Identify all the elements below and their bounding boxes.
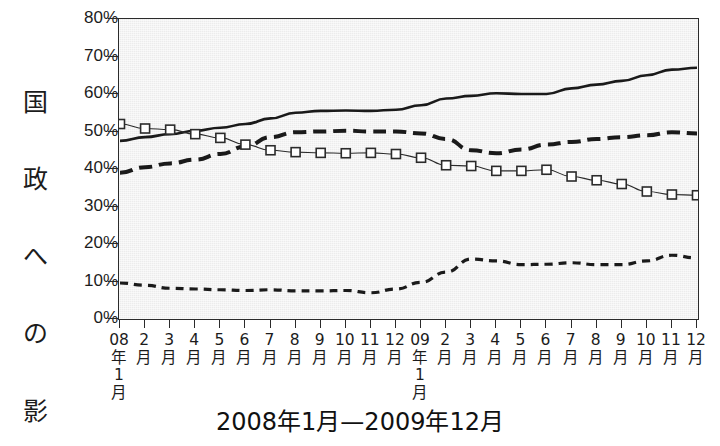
series-layer <box>119 19 698 319</box>
series-marker-square <box>667 190 676 199</box>
series-marker-square <box>467 162 476 171</box>
series-line-open-square-line <box>120 124 697 195</box>
x-axis-tick-mark <box>345 319 346 328</box>
series-line-long-dashed-line <box>120 131 697 173</box>
x-axis-tick-mark <box>445 319 446 328</box>
y-axis-tick-mark <box>108 281 118 282</box>
series-marker-square <box>642 187 651 196</box>
x-axis-tick-mark <box>194 319 195 328</box>
x-axis-tick-mark <box>621 319 622 328</box>
series-marker-square <box>391 150 400 159</box>
x-axis-tick-mark <box>470 319 471 328</box>
x-axis-tick-mark <box>370 319 371 328</box>
series-marker-square <box>119 120 125 129</box>
y-axis-tick-mark <box>108 168 118 169</box>
series-marker-square <box>266 146 275 155</box>
y-axis-tick-mark <box>108 243 118 244</box>
x-axis-tick-mark <box>395 319 396 328</box>
x-axis-tick-mark <box>219 319 220 328</box>
x-axis-tick-mark <box>270 319 271 328</box>
series-marker-square <box>166 125 175 134</box>
x-axis-tick-mark <box>545 319 546 328</box>
series-marker-square <box>592 176 601 185</box>
series-marker-square <box>492 166 501 175</box>
y-axis-tick-mark <box>108 206 118 207</box>
x-axis-tick-mark <box>596 319 597 328</box>
y-axis-tick-mark <box>108 93 118 94</box>
series-line-solid-line <box>120 68 697 141</box>
series-marker-square <box>341 149 350 158</box>
x-axis-tick-mark <box>320 319 321 328</box>
x-axis-tick-mark <box>420 319 421 328</box>
y-axis-tick-mark <box>108 56 118 57</box>
series-marker-square <box>141 124 150 133</box>
x-axis-tick-mark <box>646 319 647 328</box>
y-axis-tick-mark <box>108 131 118 132</box>
series-marker-square <box>693 191 699 200</box>
series-marker-square <box>442 161 451 170</box>
series-marker-square <box>542 165 551 174</box>
series-marker-square <box>517 166 526 175</box>
x-axis-tick-mark <box>571 319 572 328</box>
plot-area <box>118 18 699 320</box>
chart-figure: 国 政 へ の 影 響 力 （%） 80%70%60%50%40%30%20%1… <box>0 0 720 446</box>
series-marker-square <box>617 180 626 189</box>
series-line-short-dashed-line <box>120 255 697 293</box>
x-axis-tick-mark <box>119 319 120 328</box>
y-axis-tick-mark <box>108 318 118 319</box>
series-marker-square <box>366 148 375 157</box>
series-marker-square <box>417 153 426 162</box>
series-marker-square <box>191 130 200 139</box>
chart-title: 2008年1月—2009年12月 <box>0 408 720 436</box>
x-axis-tick-mark <box>169 319 170 328</box>
x-axis-tick-mark <box>495 319 496 328</box>
x-axis-tick-mark <box>244 319 245 328</box>
x-axis-tick-mark <box>295 319 296 328</box>
series-marker-square <box>241 140 250 149</box>
x-axis-tick-label: 12 月 <box>681 332 711 367</box>
y-axis-tick-mark <box>108 18 118 19</box>
x-axis-tick-mark <box>696 319 697 328</box>
x-axis-tick-mark <box>671 319 672 328</box>
series-marker-square <box>567 172 576 181</box>
series-marker-square <box>216 133 225 142</box>
x-axis-tick-mark <box>520 319 521 328</box>
x-axis-tick-mark <box>144 319 145 328</box>
series-marker-square <box>316 148 325 157</box>
series-marker-square <box>291 148 300 157</box>
